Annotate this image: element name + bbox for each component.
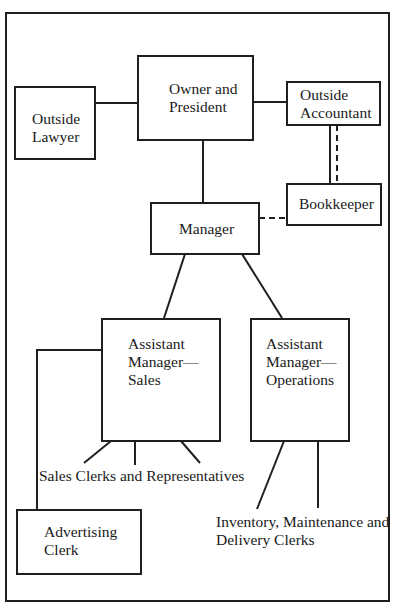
line-manager-am-sales xyxy=(164,254,185,318)
line-sales-clerk-1 xyxy=(84,441,111,463)
box-manager: Manager xyxy=(150,202,260,255)
box-label: Manager xyxy=(179,220,234,238)
box-label: Assistant Manager— Sales xyxy=(128,335,199,389)
box-advertising-clerk: Advertising Clerk xyxy=(16,509,142,575)
box-outside-accountant: Outside Accountant xyxy=(286,81,381,126)
line-sales-clerk-3 xyxy=(181,441,200,463)
box-label: Assistant Manager— Operations xyxy=(266,335,337,389)
box-outside-lawyer: Outside Lawyer xyxy=(14,86,96,160)
box-label: Owner and President xyxy=(169,80,237,116)
line-am-sales-advertising xyxy=(37,350,101,509)
label-sales-clerks: Sales Clerks and Representatives xyxy=(39,467,244,485)
box-assistant-manager-sales: Assistant Manager— Sales xyxy=(101,318,221,442)
label-operations-clerks: Inventory, Maintenance and Delivery Cler… xyxy=(216,513,389,549)
box-label: Outside Accountant xyxy=(300,86,371,122)
box-label: Outside Lawyer xyxy=(32,110,80,146)
box-bookkeeper: Bookkeeper xyxy=(286,183,382,226)
box-label: Bookkeeper xyxy=(299,195,374,213)
box-owner-president: Owner and President xyxy=(137,55,254,141)
line-manager-am-ops xyxy=(242,254,282,318)
box-label: Advertising Clerk xyxy=(44,523,117,559)
line-ops-clerk-1 xyxy=(257,441,284,509)
box-assistant-manager-operations: Assistant Manager— Operations xyxy=(250,318,350,442)
